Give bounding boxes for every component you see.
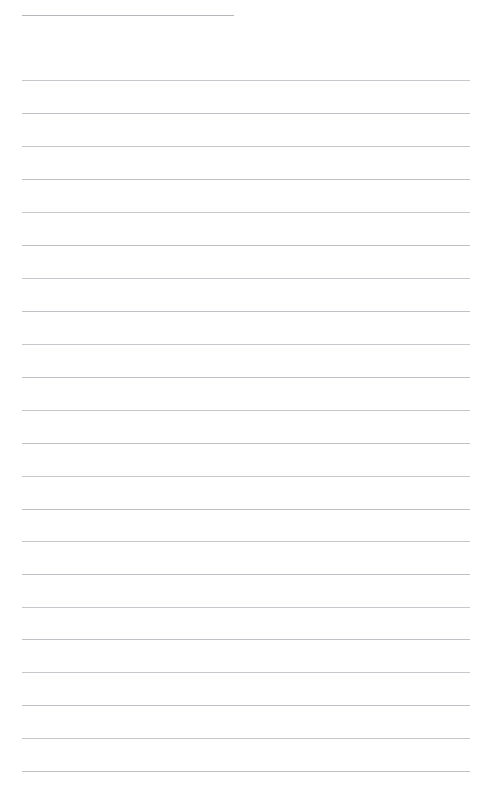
lined-paper-page: [0, 0, 491, 796]
writing-area[interactable]: [0, 0, 491, 796]
